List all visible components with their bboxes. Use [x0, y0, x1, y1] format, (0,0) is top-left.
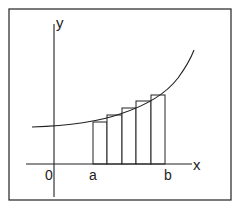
a-label: a: [89, 167, 97, 183]
riemann-rectangle-4: [136, 101, 151, 164]
x-axis-label: x: [193, 156, 201, 173]
riemann-rectangle-5: [151, 95, 165, 164]
b-label: b: [164, 167, 172, 183]
riemann-sum-diagram: y x 0 a b: [0, 0, 238, 207]
riemann-rectangle-3: [122, 108, 136, 164]
y-axis-label: y: [56, 14, 64, 31]
rectangles-group: [93, 95, 165, 164]
riemann-rectangle-2: [107, 115, 122, 164]
origin-label: 0: [45, 167, 53, 183]
riemann-rectangle-1: [93, 122, 107, 164]
